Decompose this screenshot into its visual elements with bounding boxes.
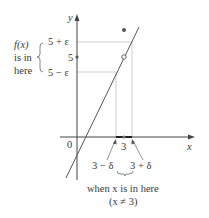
annotation-fx: f(x) xyxy=(14,40,29,51)
arrow-3-plus-delta xyxy=(133,141,143,160)
annotation-here: here xyxy=(14,66,32,77)
y-axis-arrow-icon xyxy=(75,14,80,21)
left-brace-icon xyxy=(37,43,43,72)
hole-open-circle xyxy=(122,55,126,59)
annotation-is-in: is in xyxy=(14,53,32,64)
y-label-5-minus-epsilon: 5 − ε xyxy=(48,68,69,79)
y-axis-label: y xyxy=(68,13,73,24)
x-point-3 xyxy=(122,135,125,138)
x-axis-label: x xyxy=(187,142,192,153)
y-label-5: 5 xyxy=(68,53,73,64)
x-label-3: 3 xyxy=(121,142,126,153)
f3-solid-dot xyxy=(122,28,126,32)
annotation-when-x: when x is in here xyxy=(87,184,159,195)
annotation-x-not-3: (x ≠ 3) xyxy=(109,197,138,208)
origin-label: 0 xyxy=(67,140,72,151)
x-label-3-minus-delta: 3 − δ xyxy=(92,161,113,172)
x-axis-arrow-icon xyxy=(188,135,195,140)
bottom-brace-icon xyxy=(117,171,133,176)
x-label-3-plus-delta: 3 + δ xyxy=(130,161,151,172)
y-label-5-plus-epsilon: 5 + ε xyxy=(48,37,69,48)
arrow-head-left-icon xyxy=(113,139,117,145)
y-point-5 xyxy=(75,55,78,58)
arrow-3-minus-delta xyxy=(107,141,115,160)
